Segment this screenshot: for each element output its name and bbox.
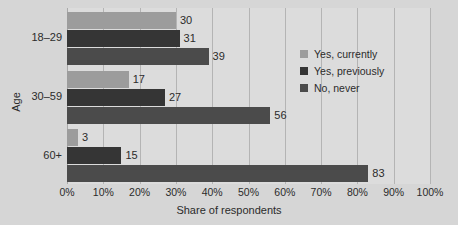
- legend-item-2[interactable]: No, never: [300, 81, 384, 95]
- bar-value-label-1-0: 17: [133, 71, 145, 88]
- x-tick-label-0: 0%: [59, 186, 74, 198]
- bar-value-label-0-1: 31: [184, 30, 196, 47]
- bar-2-1: [67, 147, 121, 164]
- x-axis-ticks: 0%10%20%30%40%50%60%70%80%90%100%: [67, 186, 430, 202]
- legend-item-0[interactable]: Yes, currently: [300, 47, 384, 61]
- bar-0-0: [67, 12, 176, 29]
- legend-swatch-icon-0: [300, 50, 308, 58]
- bar-chart: Age 18–29 30–59 60+ 30313917275631583 0%…: [0, 0, 458, 225]
- gridline-100: [430, 8, 431, 184]
- x-tick-label-10: 10%: [93, 186, 114, 198]
- y-axis-category-label-0: 18–29: [0, 31, 62, 43]
- legend-label-1: Yes, previously: [314, 65, 384, 77]
- bar-value-label-2-0: 3: [82, 129, 88, 146]
- legend: Yes, currently Yes, previously No, never: [300, 47, 384, 98]
- bar-value-label-0-0: 30: [180, 12, 192, 29]
- y-axis-category-label-2: 60+: [0, 149, 62, 161]
- legend-swatch-icon-1: [300, 67, 308, 75]
- x-tick-label-60: 60%: [274, 186, 295, 198]
- x-tick-label-40: 40%: [202, 186, 223, 198]
- bar-2-2: [67, 165, 368, 182]
- bar-1-1: [67, 89, 165, 106]
- bar-2-0: [67, 129, 78, 146]
- y-axis-category-label-1: 30–59: [0, 90, 62, 102]
- legend-swatch-icon-2: [300, 84, 308, 92]
- x-tick-label-30: 30%: [165, 186, 186, 198]
- bar-value-label-2-2: 83: [372, 165, 384, 182]
- legend-label-2: No, never: [314, 82, 360, 94]
- bar-1-2: [67, 107, 270, 124]
- bar-0-2: [67, 48, 209, 65]
- x-tick-label-100: 100%: [417, 186, 444, 198]
- bar-value-label-0-2: 39: [213, 48, 225, 65]
- x-tick-label-80: 80%: [347, 186, 368, 198]
- legend-item-1[interactable]: Yes, previously: [300, 64, 384, 78]
- x-tick-label-50: 50%: [238, 186, 259, 198]
- bar-1-0: [67, 71, 129, 88]
- x-axis-title: Share of respondents: [0, 204, 458, 216]
- bar-value-label-1-2: 56: [274, 107, 286, 124]
- legend-label-0: Yes, currently: [314, 48, 377, 60]
- bar-0-1: [67, 30, 180, 47]
- bar-value-label-2-1: 15: [125, 147, 137, 164]
- x-tick-label-70: 70%: [311, 186, 332, 198]
- x-tick-label-90: 90%: [383, 186, 404, 198]
- x-tick-label-20: 20%: [129, 186, 150, 198]
- bar-value-label-1-1: 27: [169, 89, 181, 106]
- y-axis-title: Age: [10, 82, 22, 122]
